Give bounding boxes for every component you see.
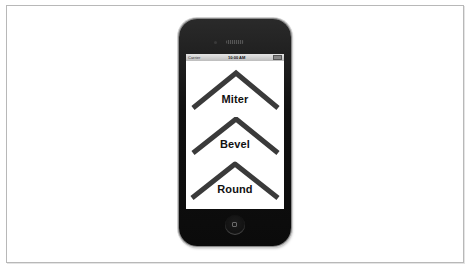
bevel-label: Bevel <box>186 138 284 150</box>
round-label: Round <box>186 183 284 195</box>
miter-label: Miter <box>186 93 284 105</box>
home-square-icon <box>232 222 237 227</box>
iphone-device: Carrier 10:00 AM Miter Bevel Round <box>179 19 291 246</box>
speaker-grille-icon <box>226 40 244 44</box>
home-button[interactable] <box>225 215 245 235</box>
front-camera-icon <box>214 41 217 44</box>
device-screen: Carrier 10:00 AM Miter Bevel Round <box>186 54 284 209</box>
